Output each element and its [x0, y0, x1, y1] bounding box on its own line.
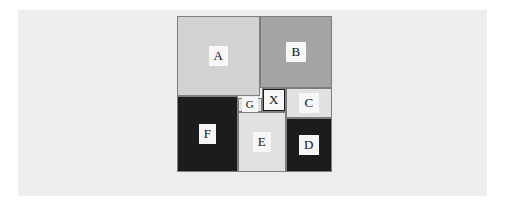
- piece-x: X: [262, 88, 286, 112]
- page-root: ABCXGFED: [0, 0, 507, 210]
- piece-e: E: [238, 112, 286, 172]
- piece-a: A: [177, 16, 260, 96]
- piece-label-e: E: [253, 132, 271, 152]
- piece-label-c: C: [299, 93, 318, 113]
- piece-label-x: X: [264, 90, 284, 110]
- piece-g: G: [238, 98, 262, 112]
- piece-label-b: B: [286, 42, 305, 62]
- piece-f: F: [177, 96, 238, 172]
- piece-b: B: [260, 16, 332, 88]
- piece-label-a: A: [209, 46, 229, 66]
- piece-label-f: F: [199, 124, 217, 144]
- piece-label-d: D: [299, 135, 319, 155]
- squared-square-figure: ABCXGFED: [177, 16, 332, 172]
- piece-d: D: [286, 118, 332, 172]
- piece-c: C: [286, 88, 332, 118]
- piece-label-g: G: [242, 97, 258, 113]
